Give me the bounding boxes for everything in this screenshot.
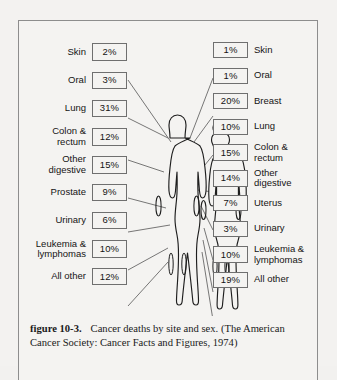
pct-box-male-all-other[interactable]: 12% [92, 268, 127, 285]
figure-content: Skin 2% Oral 3% Lung 31% Colon & rectum … [18, 20, 318, 316]
figure-caption: figure 10-3.Cancer deaths by site and se… [30, 322, 308, 349]
site-label-male-prostate: Prostate [18, 184, 86, 201]
site-label-female-breast: Breast [254, 93, 320, 109]
pct-box-female-colon-rectum[interactable]: 15% [213, 144, 248, 161]
male-body-outline [156, 115, 206, 305]
site-label-male-leukemia-lymphomas: Leukemia & lymphomas [18, 240, 86, 259]
pct-box-male-other-digestive[interactable]: 15% [92, 156, 127, 175]
pct-box-male-oral[interactable]: 3% [92, 72, 127, 89]
site-label-female-skin: Skin [254, 42, 320, 58]
site-label-female-oral: Oral [254, 68, 320, 84]
leader-lines-male [128, 80, 171, 306]
pct-box-female-other-digestive[interactable]: 14% [213, 170, 248, 187]
site-label-male-skin: Skin [18, 43, 86, 60]
leader-lines-female [190, 78, 213, 316]
site-label-female-lung: Lung [254, 119, 320, 135]
pct-box-male-colon-rectum[interactable]: 12% [92, 128, 127, 147]
pct-box-female-uterus[interactable]: 7% [213, 195, 248, 211]
site-label-male-urinary: Urinary [18, 212, 86, 229]
site-label-male-oral: Oral [18, 72, 86, 89]
pct-box-male-prostate[interactable]: 9% [92, 184, 127, 201]
site-label-male-lung: Lung [18, 100, 86, 117]
pct-box-female-oral[interactable]: 1% [213, 68, 248, 84]
site-label-female-other-digestive: Other digestive [254, 170, 320, 187]
pct-box-male-lung[interactable]: 31% [92, 100, 127, 117]
figure-caption-label: figure 10-3. [30, 323, 82, 334]
pct-box-female-urinary[interactable]: 3% [213, 221, 248, 237]
pct-box-female-all-other[interactable]: 19% [213, 272, 248, 288]
pct-box-male-urinary[interactable]: 6% [92, 212, 127, 229]
site-label-female-uterus: Uterus [254, 195, 320, 211]
pct-box-female-breast[interactable]: 20% [213, 93, 248, 109]
site-label-male-other-digestive: Other digestive [18, 156, 86, 175]
site-label-female-all-other: All other [254, 272, 320, 288]
pct-box-male-skin[interactable]: 2% [92, 43, 127, 60]
pct-box-female-leukemia-lymphomas[interactable]: 10% [213, 246, 248, 263]
site-label-female-urinary: Urinary [254, 221, 320, 237]
pct-box-female-skin[interactable]: 1% [213, 42, 248, 58]
pct-box-female-lung[interactable]: 10% [213, 119, 248, 135]
site-label-male-all-other: All other [18, 268, 86, 285]
site-label-male-colon-rectum: Colon & rectum [18, 128, 86, 147]
pct-box-male-leukemia-lymphomas[interactable]: 10% [92, 240, 127, 259]
site-label-female-colon-rectum: Colon & rectum [254, 144, 320, 161]
site-label-female-leukemia-lymphomas: Leukemia & lymphomas [254, 246, 320, 263]
